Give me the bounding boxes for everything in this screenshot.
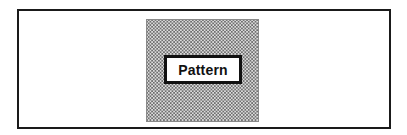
- pattern-label: Pattern: [178, 62, 228, 78]
- pattern-label-box: Pattern: [164, 55, 242, 84]
